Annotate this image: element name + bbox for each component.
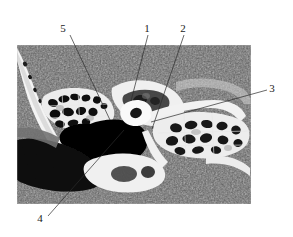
callout-label-5: 5 [60, 22, 66, 34]
callout-label-1: 1 [144, 22, 150, 34]
ct-figure-svg: 5 1 2 3 4 [0, 0, 293, 237]
callout-label-3: 3 [269, 82, 275, 94]
ct-grain-overlay [17, 45, 251, 204]
callout-label-4: 4 [37, 212, 43, 224]
ct-scan-image [14, 45, 251, 204]
callout-label-2: 2 [180, 22, 186, 34]
figure-container: 5 1 2 3 4 [0, 0, 293, 237]
